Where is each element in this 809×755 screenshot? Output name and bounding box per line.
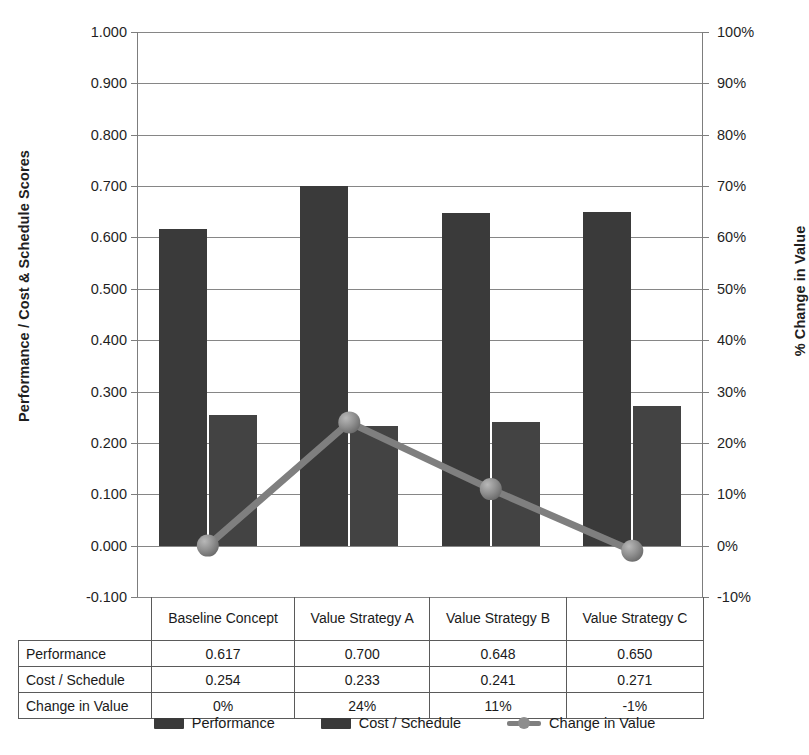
table-row-label: Performance <box>19 641 152 667</box>
table-cell: 0.650 <box>566 641 703 667</box>
table-column-header: Value Strategy B <box>430 597 566 641</box>
tick-mark-right <box>703 135 709 136</box>
table-row: Cost / Schedule0.2540.2330.2410.271 <box>19 667 704 693</box>
line-marker <box>197 535 219 557</box>
line-series-change-in-value <box>137 32 703 597</box>
y-axis-right-tick-label: 80% <box>717 126 746 144</box>
y-axis-right-tick-label: 100% <box>717 23 754 41</box>
table-cell: 0.700 <box>295 641 430 667</box>
table-cell: 0.254 <box>152 667 295 693</box>
y-axis-right-tick-label: 50% <box>717 280 746 298</box>
tick-mark-right <box>703 392 709 393</box>
y-axis-left-tick-label: 0.300 <box>45 383 127 401</box>
tick-mark-right <box>703 186 709 187</box>
y-axis-right-tick-label: 90% <box>717 74 746 92</box>
tick-mark-right <box>703 32 709 33</box>
y-axis-left-tick-label: 0.800 <box>45 126 127 144</box>
table-row-label: Cost / Schedule <box>19 667 152 693</box>
table-row: Performance0.6170.7000.6480.650 <box>19 641 704 667</box>
tick-mark-right <box>703 340 709 341</box>
table-column-header: Value Strategy A <box>295 597 430 641</box>
chart-legend: PerformanceCost / ScheduleChange in Valu… <box>0 715 809 731</box>
table-header-row: Baseline ConceptValue Strategy AValue St… <box>19 597 704 641</box>
y-axis-left-title: Performance / Cost & Schedule Scores <box>16 141 32 431</box>
y-axis-left-tick-label: 0.400 <box>45 331 127 349</box>
y-axis-right-tick-label: 30% <box>717 383 746 401</box>
y-axis-right-tick-label: 40% <box>717 331 746 349</box>
legend-item[interactable]: Cost / Schedule <box>321 715 461 731</box>
y-axis-left-tick-label: 0.500 <box>45 280 127 298</box>
y-axis-left-tick-label: 1.000 <box>45 23 127 41</box>
legend-label: Performance <box>192 715 275 731</box>
legend-item[interactable]: Change in Value <box>507 715 655 731</box>
tick-mark-right <box>703 237 709 238</box>
y-axis-right-tick-label: 70% <box>717 177 746 195</box>
plot-area <box>137 32 703 597</box>
table-column-header: Value Strategy C <box>566 597 703 641</box>
line-marker <box>480 478 502 500</box>
tick-mark-right <box>703 494 709 495</box>
table-cell: 0.617 <box>152 641 295 667</box>
table-corner-cell <box>19 597 152 641</box>
legend-line-marker-icon <box>507 716 541 730</box>
line-marker <box>338 411 360 433</box>
table-cell: 0.233 <box>295 667 430 693</box>
y-axis-right-tick-label: 60% <box>717 228 746 246</box>
table-cell: 0.241 <box>430 667 566 693</box>
y-axis-right-tick-label: -10% <box>717 588 751 606</box>
table-cell: 0.648 <box>430 641 566 667</box>
y-axis-right-tick-label: 10% <box>717 485 746 503</box>
y-axis-right-title: % Change in Value <box>792 156 808 426</box>
y-axis-left-tick-label: 0.900 <box>45 74 127 92</box>
line-marker <box>621 540 643 562</box>
table-column-header: Baseline Concept <box>152 597 295 641</box>
legend-item[interactable]: Performance <box>154 715 275 731</box>
table-cell: 0.271 <box>566 667 703 693</box>
legend-bar-swatch-icon <box>321 718 351 729</box>
y-axis-left-tick-label: 0.700 <box>45 177 127 195</box>
y-axis-right-tick-label: 0% <box>717 537 738 555</box>
data-table: Baseline ConceptValue Strategy AValue St… <box>18 597 704 719</box>
legend-label: Cost / Schedule <box>359 715 461 731</box>
legend-bar-swatch-icon <box>154 718 184 729</box>
tick-mark-right <box>703 83 709 84</box>
tick-mark-right <box>703 443 709 444</box>
legend-label: Change in Value <box>549 715 655 731</box>
y-axis-left-tick-label: 0.600 <box>45 228 127 246</box>
tick-mark-right <box>703 546 709 547</box>
y-axis-right-tick-label: 20% <box>717 434 746 452</box>
y-axis-left-tick-label: 0.100 <box>45 485 127 503</box>
tick-mark-right <box>703 289 709 290</box>
y-axis-left-tick-label: 0.200 <box>45 434 127 452</box>
y-axis-left-tick-label: 0.000 <box>45 537 127 555</box>
chart-container: Performance / Cost & Schedule Scores % C… <box>0 0 809 755</box>
